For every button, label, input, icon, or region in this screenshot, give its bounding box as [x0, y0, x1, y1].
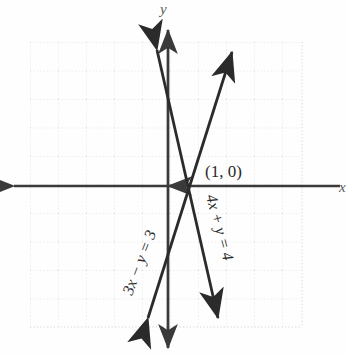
graph-canvas: y x (1, 0) 3x − y = 3 4x + y = 4: [0, 0, 347, 355]
intersection-point-label: (1, 0): [205, 162, 242, 181]
x-axis-label: x: [338, 179, 346, 195]
y-axis-label: y: [158, 1, 167, 17]
coordinate-graph-figure: y x (1, 0) 3x − y = 3 4x + y = 4: [0, 0, 347, 355]
